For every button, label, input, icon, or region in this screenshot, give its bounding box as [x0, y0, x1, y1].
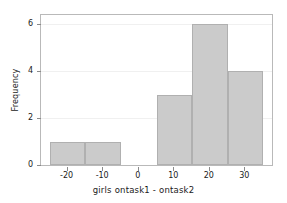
histogram-figure: 0246Frequency -20-100102030 girls ontask…: [0, 0, 287, 203]
plot-frame: 0246Frequency: [40, 14, 273, 166]
histogram-bar: [157, 95, 193, 165]
y-tick-mark: [37, 24, 41, 25]
y-tick-mark: [37, 118, 41, 119]
histogram-bar: [85, 142, 121, 165]
x-axis-label: girls ontask1 - ontask2: [0, 185, 287, 195]
histogram-bar: [50, 142, 86, 165]
plot-inner: [41, 15, 272, 165]
y-tick-label: 0: [5, 161, 33, 169]
y-tick-mark: [37, 165, 41, 166]
x-tick-label: 30: [224, 172, 264, 180]
y-tick-mark: [37, 71, 41, 72]
histogram-bar: [228, 71, 264, 165]
x-tick-label: 0: [118, 172, 158, 180]
gridline-y: [41, 24, 272, 25]
y-tick-label: 2: [5, 114, 33, 122]
x-tick-label: 20: [189, 172, 229, 180]
x-axis: -20-100102030: [40, 167, 273, 187]
y-axis-label: Frequency: [11, 68, 20, 111]
x-tick-label: 10: [153, 172, 193, 180]
x-tick-label: -20: [47, 172, 87, 180]
x-tick-label: -10: [82, 172, 122, 180]
y-tick-label: 6: [5, 20, 33, 28]
histogram-bar: [192, 24, 228, 165]
